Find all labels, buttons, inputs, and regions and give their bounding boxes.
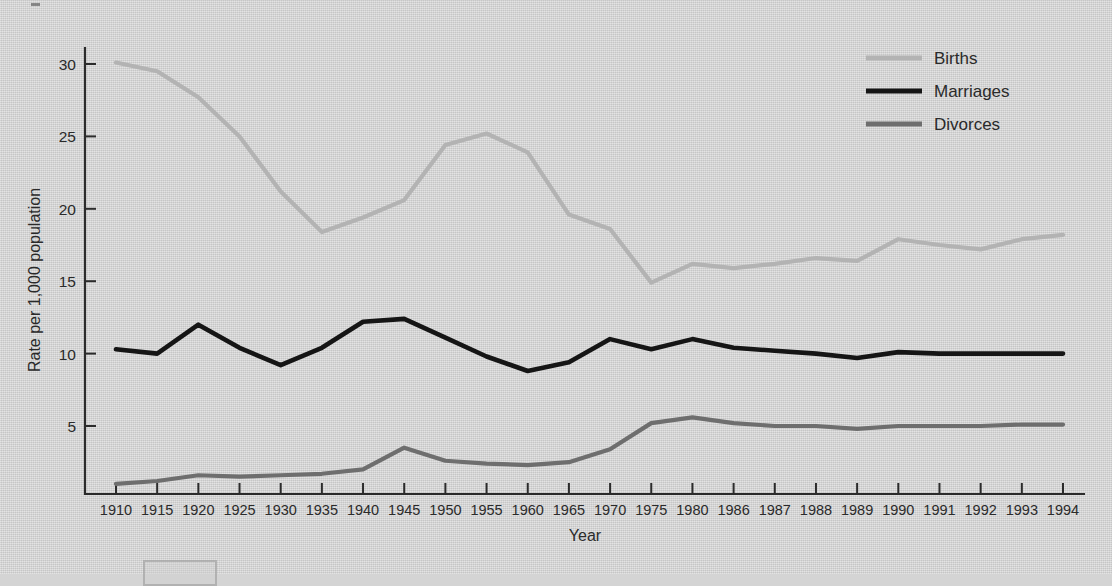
x-tick-label: 1920: [182, 502, 214, 518]
y-axis-ticks: [85, 64, 96, 426]
x-tick-label: 1990: [882, 502, 914, 518]
x-tick-label: 1940: [347, 502, 379, 518]
x-tick-label: 1987: [759, 502, 791, 518]
y-tick-label: 20: [59, 201, 77, 218]
x-tick-label: 1980: [676, 502, 708, 518]
x-tick-label: 1991: [923, 502, 955, 518]
x-tick-label: 1960: [512, 502, 544, 518]
x-tick-label: 1970: [594, 502, 626, 518]
x-tick-label: 1945: [388, 502, 420, 518]
series-line-marriages: [116, 319, 1063, 371]
x-axis-title: Year: [569, 527, 602, 544]
x-tick-label: 1950: [429, 502, 461, 518]
y-tick-label: 30: [59, 56, 77, 73]
x-tick-label: 1915: [141, 502, 173, 518]
x-tick-label: 1975: [635, 502, 667, 518]
legend-label-births[interactable]: Births: [934, 49, 977, 68]
y-axis-tick-labels: 51015202530: [59, 56, 77, 435]
x-tick-label: 1965: [553, 502, 585, 518]
y-tick-label: 10: [59, 346, 77, 363]
x-tick-label: 1994: [1047, 502, 1079, 518]
x-tick-label: 1955: [470, 502, 502, 518]
x-tick-label: 1925: [223, 502, 255, 518]
x-tick-label: 1988: [800, 502, 832, 518]
series-line-births: [116, 63, 1063, 283]
chart-legend: BirthsMarriagesDivorces: [866, 49, 1010, 134]
x-tick-label: 1993: [1006, 502, 1038, 518]
x-tick-label: 1930: [265, 502, 297, 518]
y-tick-label: 15: [59, 273, 76, 290]
y-axis-title: Rate per 1,000 population: [26, 188, 43, 372]
series-line-divorces: [116, 417, 1063, 484]
scan-stray-mark: [31, 3, 40, 6]
legend-label-divorces[interactable]: Divorces: [934, 115, 1000, 134]
scan-artifact-box: [143, 560, 217, 586]
y-tick-label: 25: [59, 128, 76, 145]
x-tick-label: 1935: [306, 502, 338, 518]
x-tick-label: 1992: [965, 502, 997, 518]
x-axis-tick-labels: 1910191519201925193019351940194519501955…: [100, 502, 1079, 518]
x-tick-label: 1986: [717, 502, 749, 518]
x-tick-label: 1989: [841, 502, 873, 518]
legend-label-marriages[interactable]: Marriages: [934, 82, 1010, 101]
x-tick-label: 1910: [100, 502, 132, 518]
x-axis-ticks: [116, 483, 1063, 494]
y-tick-label: 5: [67, 418, 76, 435]
